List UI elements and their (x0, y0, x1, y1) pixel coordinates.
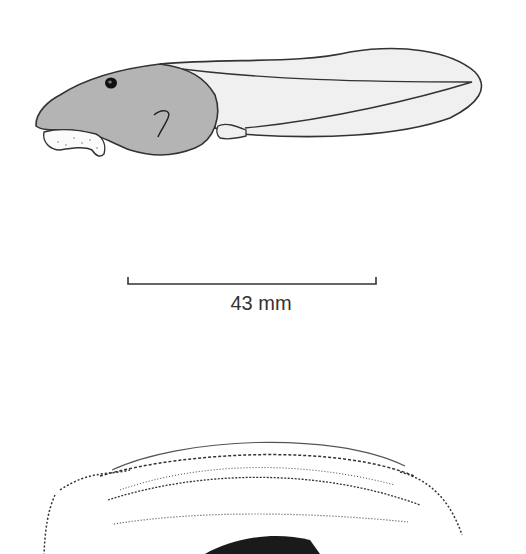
beak (205, 536, 320, 554)
scale-bar (128, 277, 376, 284)
oral-disc (44, 442, 462, 554)
scale-label: 43 mm (0, 292, 526, 315)
oral-tissue (44, 130, 105, 156)
tadpole-illustration (0, 0, 526, 554)
